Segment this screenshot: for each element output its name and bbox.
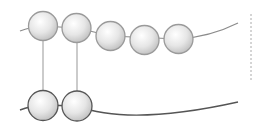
top-bead-1 <box>29 12 58 41</box>
bead-chain-diagram <box>0 0 254 137</box>
bottom-bead-2 <box>62 91 92 121</box>
top-bead-5 <box>164 25 193 54</box>
bottom-bead-1 <box>28 91 58 121</box>
top-bead-2 <box>62 14 91 43</box>
top-bead-4 <box>130 26 159 55</box>
top-bead-3 <box>96 22 125 51</box>
